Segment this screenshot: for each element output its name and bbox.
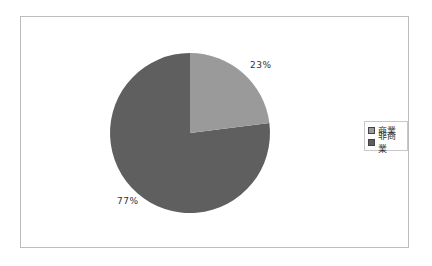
legend: 商業 非商業 bbox=[364, 121, 408, 151]
legend-item-non-commercial: 非商業 bbox=[368, 136, 404, 148]
legend-label: 非商業 bbox=[378, 129, 404, 155]
data-label-commercial: 23% bbox=[250, 60, 272, 70]
legend-swatch-icon bbox=[368, 139, 375, 146]
legend-swatch-icon bbox=[368, 127, 375, 134]
data-label-non-commercial: 77% bbox=[117, 196, 139, 206]
